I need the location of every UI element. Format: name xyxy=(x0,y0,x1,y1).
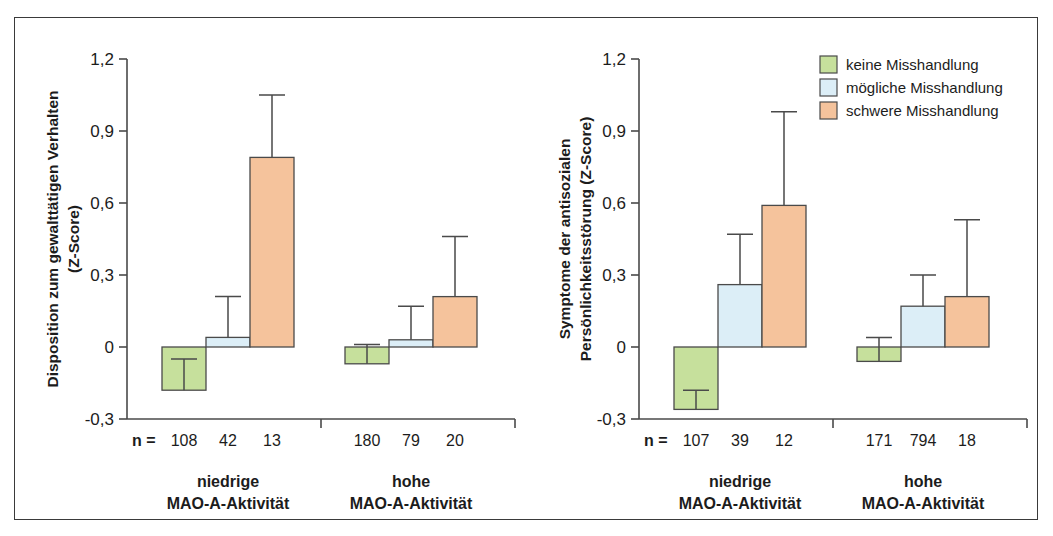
n-value-right-g1-s1: 107 xyxy=(683,432,710,449)
bar-left-g2-s3 xyxy=(433,297,477,347)
bar-right-g2-s3 xyxy=(945,297,989,347)
legend-label-2: mögliche Misshandlung xyxy=(846,79,1003,96)
n-value-right-g2-s1: 171 xyxy=(866,432,893,449)
figure-page: -0,300,30,60,91,2n =10842131807920niedri… xyxy=(0,0,1053,536)
error-bar-left-g1-s2 xyxy=(215,297,241,338)
y-tick-label: 0,9 xyxy=(90,122,114,141)
n-value-right-g1-s2: 39 xyxy=(731,432,749,449)
y-tick-label: 1,2 xyxy=(90,50,114,69)
y-tick-label: -0,3 xyxy=(85,410,114,429)
bar-right-g1-s3 xyxy=(762,205,806,347)
group-label-line1-left-g2: hohe xyxy=(392,473,430,490)
y-tick-label: 0,9 xyxy=(602,122,626,141)
bar-right-g2-s2 xyxy=(901,306,945,347)
y-tick-label: 0,6 xyxy=(90,194,114,213)
bar-left-g1-s3 xyxy=(250,157,294,347)
y-tick-label: 1,2 xyxy=(602,50,626,69)
y-tick-label: 0 xyxy=(617,338,626,357)
n-value-left-g1-s3: 13 xyxy=(263,432,281,449)
error-bar-left-g2-s3 xyxy=(442,237,468,297)
n-value-left-g2-s3: 20 xyxy=(446,432,464,449)
group-label-line2-left-g2: MAO-A-Aktivität xyxy=(350,495,473,512)
chart-panel-right: -0,300,30,60,91,2n =107391217179418niedr… xyxy=(527,18,1039,519)
n-prefix-label: n = xyxy=(132,432,156,449)
group-label-line2-left-g1: MAO-A-Aktivität xyxy=(167,495,290,512)
y-tick-label: 0,3 xyxy=(90,266,114,285)
y-axis-title-line2-left: (Z-Score) xyxy=(65,205,82,273)
y-tick-label: 0 xyxy=(105,338,114,357)
n-value-left-g2-s2: 79 xyxy=(402,432,420,449)
error-bar-right-g1-s3 xyxy=(771,112,797,206)
legend-label-1: keine Misshandlung xyxy=(846,56,979,73)
bar-chart-violence: -0,300,30,60,91,2n =10842131807920niedri… xyxy=(15,18,527,521)
y-axis-title-line1-left: Disposition zum gewalttätigen Verhalten xyxy=(44,90,61,387)
n-value-left-g2-s1: 180 xyxy=(354,432,381,449)
n-value-left-g1-s2: 42 xyxy=(219,432,237,449)
y-axis-title-line2-right: Persönlichkeitsstörung (Z-Score) xyxy=(577,117,594,362)
y-axis-title-line1-right: Symptome der antisozialen xyxy=(556,139,573,340)
error-bar-right-g2-s2 xyxy=(910,275,936,306)
legend-label-3: schwere Misshandlung xyxy=(846,102,999,119)
legend-swatch-1 xyxy=(820,56,837,73)
n-value-right-g1-s3: 12 xyxy=(775,432,793,449)
error-bar-right-g1-s2 xyxy=(727,234,753,284)
n-value-right-g2-s2: 794 xyxy=(910,432,937,449)
bar-left-g2-s2 xyxy=(389,340,433,347)
bar-right-g1-s2 xyxy=(718,285,762,347)
chart-panel-left: -0,300,30,60,91,2n =10842131807920niedri… xyxy=(15,18,527,519)
error-bar-left-g1-s3 xyxy=(259,95,285,157)
y-tick-label: 0,6 xyxy=(602,194,626,213)
group-label-line1-right-g1: niedrige xyxy=(709,473,771,490)
y-tick-label: 0,3 xyxy=(602,266,626,285)
n-prefix-label: n = xyxy=(644,432,668,449)
error-bar-left-g2-s2 xyxy=(398,306,424,340)
bar-chart-antisocial: -0,300,30,60,91,2n =107391217179418niedr… xyxy=(527,18,1039,521)
group-label-line2-right-g1: MAO-A-Aktivität xyxy=(679,495,802,512)
legend-swatch-3 xyxy=(820,102,837,119)
group-label-line1-right-g2: hohe xyxy=(904,473,942,490)
n-value-right-g2-s3: 18 xyxy=(958,432,976,449)
y-tick-label: -0,3 xyxy=(597,410,626,429)
figure-frame: -0,300,30,60,91,2n =10842131807920niedri… xyxy=(14,17,1038,520)
n-value-left-g1-s1: 108 xyxy=(171,432,198,449)
bar-left-g1-s2 xyxy=(206,337,250,347)
group-label-line2-right-g2: MAO-A-Aktivität xyxy=(862,495,985,512)
legend-swatch-2 xyxy=(820,79,837,96)
group-label-line1-left-g1: niedrige xyxy=(197,473,259,490)
error-bar-right-g2-s3 xyxy=(954,220,980,297)
